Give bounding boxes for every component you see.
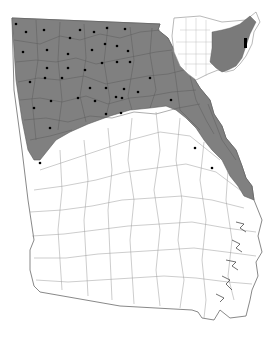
us-inset-map (172, 12, 260, 80)
inset-highlight-state (244, 38, 247, 48)
georgia-range-map (0, 0, 274, 338)
